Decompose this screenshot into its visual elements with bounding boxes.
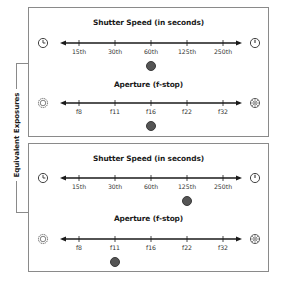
wide-aperture-icon: [38, 98, 49, 109]
aperture-scale: f8f11f16f22f32: [29, 96, 268, 126]
shutter-tick-label: 250th: [214, 183, 232, 190]
fast-clock-icon: [250, 173, 261, 184]
aperture-selected-marker: [110, 257, 120, 267]
shutter-tick-label: 30th: [108, 48, 122, 55]
shutter-tick-label: 60th: [144, 183, 158, 190]
aperture-tick-label: f8: [76, 108, 82, 115]
narrow-aperture-icon: [250, 98, 261, 109]
aperture-title: Aperture (f-stop): [29, 214, 268, 223]
shutter-tick-label: 60th: [144, 48, 158, 55]
aperture-tick-label: f32: [218, 108, 228, 115]
shutter-speed-scale: 15th30th60th125th250th: [29, 36, 268, 66]
aperture-tick-label: f11: [110, 108, 120, 115]
shutter-tick-label: 15th: [72, 48, 86, 55]
exposure-panel-2: Shutter Speed (in seconds) 15th30th60th1…: [28, 143, 269, 272]
slow-clock-icon: [38, 173, 49, 184]
shutter-speed-title: Shutter Speed (in seconds): [29, 18, 268, 27]
slow-clock-icon: [38, 38, 49, 49]
shutter-tick-label: 250th: [214, 48, 232, 55]
aperture-title: Aperture (f-stop): [29, 80, 268, 89]
wide-aperture-icon: [38, 234, 49, 245]
aperture-tick-label: f8: [76, 244, 82, 251]
aperture-tick-label: f16: [146, 244, 156, 251]
shutter-selected-marker: [182, 196, 192, 206]
aperture-tick-label: f22: [182, 244, 192, 251]
aperture-tick-label: f22: [182, 108, 192, 115]
shutter-tick-label: 125th: [178, 48, 196, 55]
aperture-tick-label: f16: [146, 108, 156, 115]
aperture-tick-label: f11: [110, 244, 120, 251]
shutter-speed-title: Shutter Speed (in seconds): [29, 154, 268, 163]
shutter-speed-scale: 15th30th60th125th250th: [29, 171, 268, 201]
shutter-tick-label: 15th: [72, 183, 86, 190]
exposure-panel-1: Shutter Speed (in seconds) 15th30th60th1…: [28, 7, 269, 137]
shutter-selected-marker: [146, 61, 156, 71]
aperture-scale: f8f11f16f22f32: [29, 232, 268, 262]
aperture-selected-marker: [146, 121, 156, 131]
shutter-tick-label: 125th: [178, 183, 196, 190]
shutter-tick-label: 30th: [108, 183, 122, 190]
narrow-aperture-icon: [250, 234, 261, 245]
equivalent-exposures-label: Equivalent Exposures: [13, 89, 21, 181]
aperture-tick-label: f32: [218, 244, 228, 251]
fast-clock-icon: [250, 38, 261, 49]
